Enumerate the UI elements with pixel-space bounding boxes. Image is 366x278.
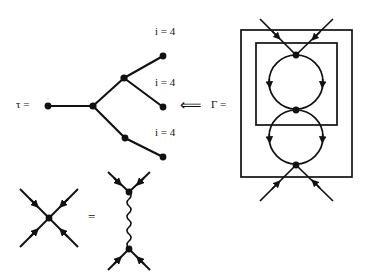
incoming-leg-bottom-right-arrow [314, 182, 320, 188]
gamma-label: Γ = [211, 98, 226, 110]
exchange-bottom-vertex [126, 246, 133, 253]
contact-leg-br-arrow [62, 231, 68, 237]
tree-edges [48, 56, 163, 157]
physics-figure-canvas [0, 0, 366, 278]
upper-loop-left-arc [269, 55, 296, 109]
four-point-vertex-identity [20, 172, 150, 270]
tree-edge-lower-leaf [125, 138, 163, 157]
tree-edge-upper [93, 78, 124, 106]
contact-vertex [20, 189, 78, 247]
leaf-label-3: i = 4 [155, 126, 175, 138]
upper-loop [269, 55, 323, 109]
identity-equals-sign: = [88, 209, 95, 225]
implication-arrow: ⟸ [180, 96, 202, 114]
leaf-label-1: i = 4 [155, 25, 175, 37]
contact-leg-tr-arrow [62, 199, 68, 205]
lower-loop-right-arc [296, 110, 323, 164]
tree-node-upper [120, 74, 127, 81]
top-vertex [293, 52, 300, 59]
exchange-leg-bl-arrow [114, 259, 119, 264]
wavy-boson-propagator [127, 192, 131, 248]
tree-leaf-3 [160, 154, 167, 161]
incoming-leg-top-right-arrow [314, 32, 320, 38]
tree-leaf-2 [160, 104, 167, 111]
tree-edge-upper-leaf1 [124, 56, 163, 78]
boson-exchange-diagram [108, 172, 150, 270]
tree-leaf-1 [160, 53, 167, 60]
two-loop-diagram-gamma [241, 19, 352, 201]
bottom-vertex [293, 162, 300, 169]
contact-leg-tl-arrow [30, 199, 36, 205]
exchange-leg-br-arrow [139, 259, 144, 264]
lower-loop [269, 110, 323, 164]
tree-node-root [45, 103, 52, 110]
leaf-label-2: i = 4 [155, 76, 175, 88]
graph-vertices [293, 52, 300, 169]
middle-vertex [293, 107, 300, 114]
tree-edge-lower [93, 106, 125, 138]
rooted-tree-tau [45, 53, 167, 161]
contact-leg-bl-arrow [30, 231, 36, 237]
contact-vertex-dot [46, 215, 53, 222]
incoming-leg-top-left-arrow [272, 31, 278, 37]
exchange-top-vertex [126, 189, 133, 196]
lower-loop-left-arc [269, 110, 296, 164]
tree-node-lower [122, 135, 129, 142]
tau-label: τ = [16, 98, 29, 110]
upper-loop-right-arc [296, 55, 323, 109]
tree-node-branch [89, 102, 96, 109]
incoming-leg-bottom-left-arrow [272, 183, 278, 189]
